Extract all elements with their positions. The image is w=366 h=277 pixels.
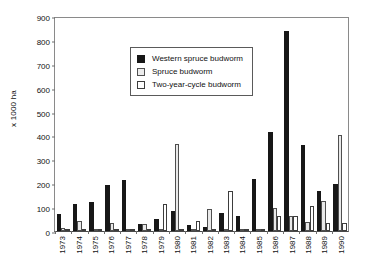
x-axis-tick-mark — [120, 231, 121, 234]
legend-item: Two-year-cycle budworm — [137, 78, 243, 91]
bar — [228, 191, 232, 231]
bar-chart-figure: x 1000 ha 0100200300400500600700800900 W… — [0, 0, 366, 277]
x-axis-label-text: 1973 — [58, 236, 67, 254]
x-axis-tick-mark — [136, 231, 137, 234]
x-axis-label-text: 1976 — [107, 236, 116, 254]
x-axis-label-text: 1983 — [222, 236, 231, 254]
x-axis-label: 1990 — [333, 236, 349, 276]
bar-group — [71, 18, 87, 231]
bar — [284, 31, 288, 231]
legend-label: Spruce budworm — [152, 67, 212, 76]
bar — [310, 206, 314, 231]
bar-group — [299, 18, 315, 231]
x-axis-label: 1982 — [202, 236, 218, 276]
x-axis-label: 1977 — [120, 236, 136, 276]
x-axis-label-text: 1977 — [123, 236, 132, 254]
x-axis-label-text: 1980 — [172, 236, 181, 254]
x-axis-label: 1975 — [87, 236, 103, 276]
bar-group — [332, 18, 348, 231]
bar-group — [267, 18, 283, 231]
x-axis-label: 1974 — [70, 236, 86, 276]
legend-swatch-western-spruce-budworm — [137, 55, 145, 63]
x-axis-tick-mark — [234, 231, 235, 234]
x-axis-label-text: 1978 — [140, 236, 149, 254]
x-axis-label-text: 1987 — [287, 236, 296, 254]
legend-swatch-spruce-budworm — [137, 68, 145, 76]
bar — [212, 229, 216, 231]
x-axis-label-text: 1979 — [156, 236, 165, 254]
x-axis-tick-mark — [88, 231, 89, 234]
bar — [207, 209, 211, 231]
bar — [82, 229, 86, 231]
legend-label: Western spruce budworm — [152, 54, 243, 63]
x-axis-label: 1976 — [103, 236, 119, 276]
bar — [175, 144, 179, 231]
bar — [122, 180, 126, 231]
x-axis-tick-mark — [299, 231, 300, 234]
x-axis-tick-mark — [153, 231, 154, 234]
x-axis-tick-mark — [316, 231, 317, 234]
x-axis-label: 1987 — [283, 236, 299, 276]
x-axis-label: 1973 — [54, 236, 70, 276]
bar — [196, 221, 200, 231]
bar — [163, 204, 167, 231]
x-axis-tick-mark — [250, 231, 251, 234]
bar — [277, 216, 281, 231]
bar — [65, 229, 69, 231]
x-axis-tick-mark — [283, 231, 284, 234]
x-axis-label: 1988 — [300, 236, 316, 276]
x-axis-tick-mark — [169, 231, 170, 234]
bar — [293, 216, 297, 231]
x-axis-label-text: 1988 — [304, 236, 313, 254]
bar — [114, 229, 118, 231]
bar-group — [283, 18, 299, 231]
bar — [89, 202, 93, 231]
bar-group — [316, 18, 332, 231]
bar — [252, 179, 256, 231]
bar — [338, 135, 342, 231]
bar — [301, 145, 305, 231]
x-axis-label-text: 1975 — [90, 236, 99, 254]
x-axis-label: 1978 — [136, 236, 152, 276]
bar — [326, 223, 330, 231]
bar — [244, 229, 248, 231]
bar — [342, 223, 346, 231]
x-axis-label: 1986 — [267, 236, 283, 276]
x-axis-tick-mark — [202, 231, 203, 234]
x-axis-labels: 1973197419751976197719781979198019811982… — [54, 236, 349, 276]
x-axis-label-text: 1984 — [238, 236, 247, 254]
x-axis-label-text: 1990 — [336, 236, 345, 254]
bar-group — [55, 18, 71, 231]
x-axis-label-text: 1989 — [320, 236, 329, 254]
bar — [147, 229, 151, 231]
x-axis-tick-mark — [218, 231, 219, 234]
bar-group — [104, 18, 120, 231]
x-axis-label-text: 1986 — [271, 236, 280, 254]
x-axis-label-text: 1981 — [189, 236, 198, 254]
x-axis-label-text: 1974 — [74, 236, 83, 254]
y-axis-title: x 1000 ha — [9, 74, 18, 144]
x-axis-tick-mark — [267, 231, 268, 234]
x-axis-tick-mark — [185, 231, 186, 234]
x-axis-label: 1985 — [251, 236, 267, 276]
x-axis-tick-mark — [332, 231, 333, 234]
x-axis-tick-mark — [71, 231, 72, 234]
legend-item: Spruce budworm — [137, 65, 243, 78]
x-axis-tick-mark — [104, 231, 105, 234]
x-axis-label: 1979 — [152, 236, 168, 276]
x-axis-label: 1989 — [316, 236, 332, 276]
x-axis-label-text: 1985 — [254, 236, 263, 254]
chart-legend: Western spruce budworm Spruce budworm Tw… — [130, 47, 253, 96]
bar — [130, 229, 134, 231]
plot-area: 0100200300400500600700800900 Western spr… — [54, 17, 349, 232]
legend-item: Western spruce budworm — [137, 52, 243, 65]
x-axis-tick-mark — [55, 231, 56, 234]
x-axis-label: 1981 — [185, 236, 201, 276]
legend-label: Two-year-cycle budworm — [152, 80, 241, 89]
x-axis-label: 1983 — [218, 236, 234, 276]
legend-swatch-two-year-cycle-budworm — [137, 81, 145, 89]
bar — [179, 229, 183, 231]
bar — [98, 229, 102, 231]
x-axis-label: 1984 — [234, 236, 250, 276]
x-axis-label: 1980 — [169, 236, 185, 276]
